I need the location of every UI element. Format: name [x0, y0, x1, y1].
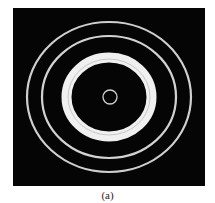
figure-caption: (a) — [0, 189, 215, 202]
ring-pattern — [13, 8, 205, 186]
diffraction-pattern-image — [13, 8, 205, 186]
